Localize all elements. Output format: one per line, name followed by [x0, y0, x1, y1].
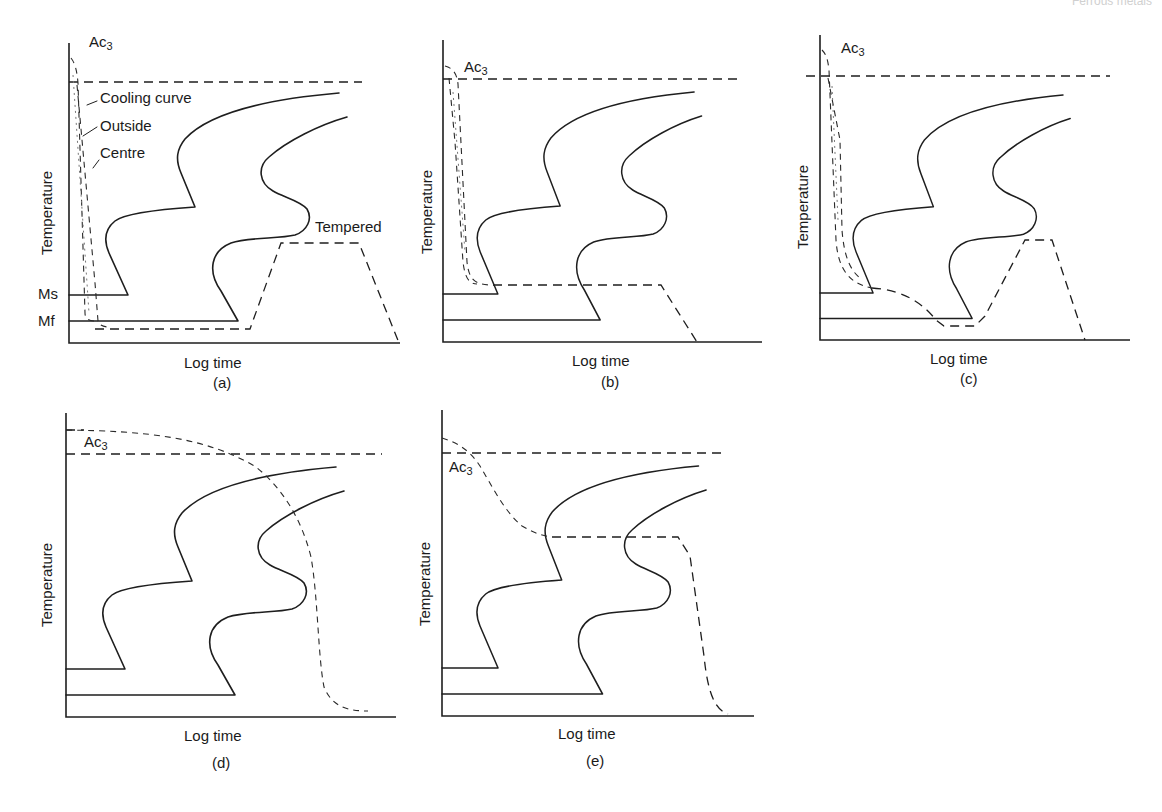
- panel-c: [806, 35, 1130, 340]
- caption-e: (e): [586, 752, 604, 769]
- tempered-label: Tempered: [315, 218, 382, 235]
- x-axis-label-d: Log time: [184, 727, 242, 744]
- ac3-label-d: Ac3: [84, 433, 108, 452]
- x-axis-label-b: Log time: [572, 352, 630, 369]
- ac3-label-a: Ac3: [89, 33, 113, 52]
- caption-c: (c): [960, 370, 978, 387]
- diagram-canvas: [0, 0, 1162, 812]
- y-axis-label-a: Temperature: [38, 171, 55, 255]
- panel-a: [69, 43, 400, 343]
- caption-b: (b): [601, 373, 619, 390]
- panel-b: [443, 40, 762, 342]
- x-axis-label-a: Log time: [184, 354, 242, 371]
- ms-label: Ms: [38, 285, 58, 302]
- panel-e: [442, 410, 754, 716]
- y-axis-label-b: Temperature: [418, 170, 435, 254]
- outside-label: Outside: [100, 117, 152, 134]
- y-axis-label-e: Temperature: [416, 542, 433, 626]
- x-axis-label-e: Log time: [558, 725, 616, 742]
- x-axis-label-c: Log time: [930, 350, 988, 367]
- panel-d: [66, 413, 396, 717]
- cooling-curve-label: Cooling curve: [100, 89, 192, 106]
- y-axis-label-c: Temperature: [794, 165, 811, 249]
- caption-d: (d): [212, 754, 230, 771]
- centre-label: Centre: [100, 144, 145, 161]
- ac3-label-c: Ac3: [841, 39, 865, 58]
- mf-label: Mf: [38, 312, 55, 329]
- caption-a: (a): [213, 374, 231, 391]
- y-axis-label-d: Temperature: [38, 543, 55, 627]
- ac3-label-b: Ac3: [464, 58, 488, 77]
- ac3-label-e: Ac3: [449, 458, 473, 477]
